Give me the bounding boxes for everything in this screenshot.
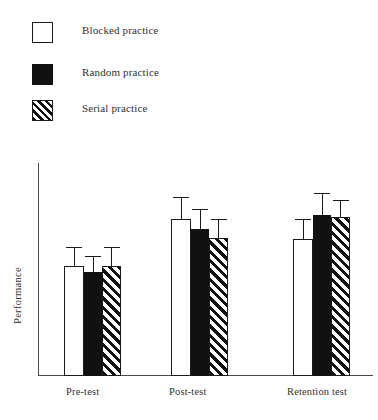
x-tick-label-pre-test: Pre-test [66, 386, 99, 397]
bar-random-practice-post-test [191, 229, 209, 376]
bar-blocked-practice-retention-test [293, 239, 313, 376]
error-bar-cap-serial-practice-pre-test [104, 247, 120, 248]
bar-random-practice-pre-test [84, 272, 102, 376]
error-bar-cap-serial-practice-post-test [211, 219, 227, 220]
bar-group-retention-test [293, 140, 349, 376]
legend-label-serial-practice: Serial practice [82, 102, 147, 114]
x-tick-label-post-test: Post-test [169, 386, 207, 397]
error-bar-blocked-practice-retention-test [303, 220, 304, 239]
bar-group-post-test [171, 140, 227, 376]
error-bar-serial-practice-pre-test [111, 248, 112, 266]
y-axis-line [38, 163, 39, 376]
error-bar-cap-blocked-practice-post-test [173, 197, 189, 198]
error-bar-cap-random-practice-post-test [192, 209, 208, 210]
x-tick-label-retention-test: Retention test [287, 386, 347, 397]
bar-serial-practice-post-test [209, 238, 228, 376]
error-bar-cap-random-practice-pre-test [85, 256, 101, 257]
bar-serial-practice-pre-test [102, 266, 121, 376]
error-bar-serial-practice-post-test [218, 220, 219, 238]
error-bar-random-practice-post-test [200, 210, 201, 229]
open-square-swatch [32, 22, 53, 43]
error-bar-cap-blocked-practice-retention-test [295, 219, 311, 220]
error-bar-cap-serial-practice-retention-test [333, 200, 349, 201]
error-bar-cap-random-practice-retention-test [314, 193, 330, 194]
error-bar-serial-practice-retention-test [340, 201, 341, 217]
error-bar-blocked-practice-post-test [181, 198, 182, 219]
legend-label-random-practice: Random practice [82, 66, 159, 78]
bar-blocked-practice-pre-test [64, 266, 84, 376]
bar-chart-plot-area: Performance Pr [0, 140, 378, 420]
error-bar-random-practice-pre-test [93, 257, 94, 272]
bar-serial-practice-retention-test [331, 217, 350, 376]
hatched-square-swatch [32, 100, 53, 121]
error-bar-cap-blocked-practice-pre-test [66, 247, 82, 248]
error-bar-blocked-practice-pre-test [74, 248, 75, 266]
bar-random-practice-retention-test [313, 215, 331, 376]
filled-square-swatch [32, 64, 53, 85]
error-bar-random-practice-retention-test [322, 194, 323, 215]
legend-label-blocked-practice: Blocked practice [82, 24, 159, 36]
bar-blocked-practice-post-test [171, 219, 191, 376]
y-axis-label: Performance [12, 241, 23, 351]
bar-group-pre-test [64, 140, 120, 376]
chart-legend: Blocked practice Random practice Serial … [0, 0, 378, 140]
